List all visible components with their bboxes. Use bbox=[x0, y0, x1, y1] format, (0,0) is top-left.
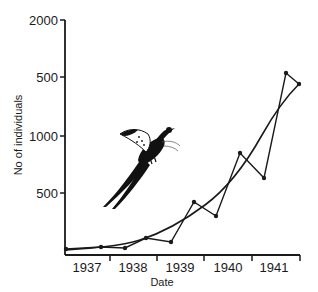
wing-spot bbox=[141, 140, 143, 142]
population-growth-chart: 2000 500 1000 500 No of individuals 1937… bbox=[0, 0, 318, 292]
wing-spot bbox=[138, 136, 140, 138]
y-tick-label-500: 500 bbox=[36, 186, 58, 201]
data-point bbox=[262, 176, 266, 180]
pheasant-tail bbox=[112, 160, 150, 209]
wing-spot bbox=[143, 144, 145, 146]
data-point bbox=[284, 71, 288, 75]
data-point bbox=[214, 214, 218, 218]
x-tick-label-1937: 1937 bbox=[73, 260, 102, 275]
data-point bbox=[169, 240, 173, 244]
fitted-growth-curve bbox=[66, 84, 299, 250]
x-tick-label-1939: 1939 bbox=[166, 260, 195, 275]
wing-spot bbox=[136, 141, 138, 143]
data-point bbox=[123, 246, 127, 250]
data-point bbox=[238, 151, 242, 155]
y-tick-label-2000: 2000 bbox=[29, 13, 58, 28]
x-axis-title: Date bbox=[150, 276, 173, 288]
x-tick-label-1938: 1938 bbox=[119, 260, 148, 275]
data-point bbox=[144, 236, 148, 240]
data-point bbox=[192, 200, 196, 204]
y-tick-label-1000: 1000 bbox=[29, 129, 58, 144]
observed-population-line bbox=[66, 73, 299, 249]
data-points bbox=[64, 71, 301, 251]
data-point bbox=[297, 82, 301, 86]
x-tick-label-1940: 1940 bbox=[214, 260, 243, 275]
y-tick-label-1500: 500 bbox=[36, 70, 58, 85]
y-axis-title: No of individuals bbox=[12, 94, 24, 175]
x-tick-label-1941: 1941 bbox=[260, 260, 289, 275]
data-point bbox=[99, 245, 103, 249]
data-point bbox=[64, 247, 68, 251]
pheasant-illustration bbox=[103, 127, 180, 209]
pheasant-far-wing bbox=[162, 141, 180, 151]
